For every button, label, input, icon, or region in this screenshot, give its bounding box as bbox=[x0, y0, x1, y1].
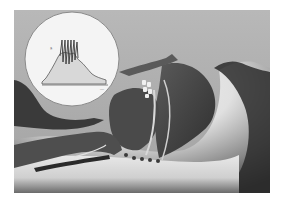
anatomy-illustration: § — bbox=[14, 10, 270, 193]
airway-cross-section: § — bbox=[14, 10, 270, 193]
x-axis-label: — bbox=[100, 86, 104, 91]
waveform-inset: § — bbox=[25, 12, 119, 106]
y-axis-label: § bbox=[50, 46, 52, 51]
